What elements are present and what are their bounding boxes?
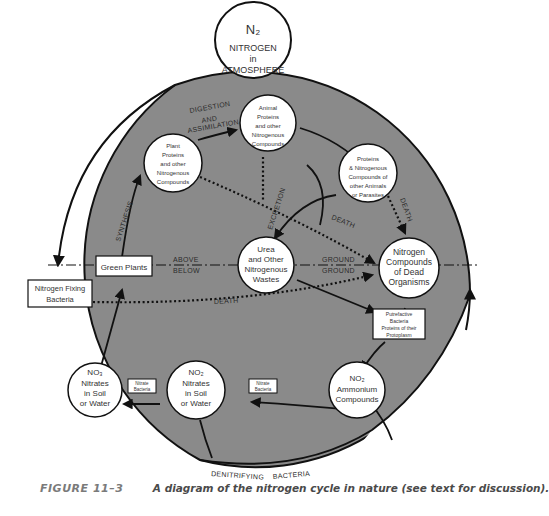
label-denitrifying: DENITRIFYING — [211, 470, 264, 481]
nitrate-bacteria-line: Bacteria — [255, 387, 272, 392]
ammonium-line: Compounds — [335, 395, 378, 404]
node-atmosphere: N₂ NITROGEN in ATMOSPHERE — [215, 2, 291, 78]
atmosphere-line: ATMOSPHERE — [222, 65, 284, 75]
ammonium-formula: NO₂ — [349, 374, 364, 383]
parasite-line: Proteins — [357, 156, 379, 162]
ammonium-line: Ammonium — [337, 385, 378, 394]
dead-line: Nitrogen — [393, 247, 425, 257]
putrefactive-line: Proteins of their — [381, 325, 416, 331]
figure-caption-text: A diagram of the nitrogen cycle in natur… — [153, 482, 549, 494]
plant-line: Plant — [166, 143, 180, 149]
green-plants-label: Green Plants — [101, 263, 148, 272]
plant-line: Proteins — [162, 152, 184, 158]
parasite-line: or Parasites — [352, 192, 384, 198]
atmosphere-formula: N₂ — [246, 22, 260, 37]
animal-line: Animal — [259, 105, 277, 111]
putrefactive-line: Bacteria — [390, 318, 409, 324]
box-green-plants: Green Plants — [96, 256, 152, 276]
putrefactive-line: Protoplasm — [386, 332, 411, 338]
nitrate-bacteria-line: Bacteria — [134, 387, 151, 392]
box-nitrogen-fixing: Nitrogen Fixing Bacteria — [28, 280, 92, 307]
nitrate-bacteria-line: Nitrate — [256, 381, 270, 386]
node-ammonium: NO₂ Ammonium Compounds — [329, 362, 385, 418]
urea-line: Urea — [257, 245, 275, 254]
label-ground-below: GROUND — [322, 267, 355, 274]
figure-caption: FIGURE 11–3 A diagram of the nitrogen cy… — [40, 482, 500, 495]
label-death-lower: DEATH — [214, 297, 239, 305]
nitrogen-fixing-line: Nitrogen Fixing — [35, 284, 85, 293]
parasite-line: other Animals — [350, 183, 386, 189]
animal-line: Nitrogenous — [252, 132, 284, 138]
parasite-line: & Nitrogenous — [349, 165, 387, 171]
nitrogen-fixing-line: Bacteria — [46, 295, 74, 304]
atmosphere-line: NITROGEN — [229, 43, 277, 53]
node-nitrites: NO₂ Nitrates in Soil or Water — [167, 361, 225, 419]
animal-line: Compounds — [252, 141, 284, 147]
box-putrefactive: Putrefactive Bacteria Proteins of their … — [373, 309, 425, 339]
dead-line: Organisms — [388, 277, 429, 287]
animal-line: Proteins — [257, 114, 279, 120]
urea-line: and Other — [248, 255, 284, 264]
urea-line: Nitrogenous — [244, 265, 287, 274]
label-ground-above: GROUND — [322, 256, 355, 263]
label-bacteria: BACTERIA — [272, 470, 310, 480]
node-nitrates: NO₃ Nitrates in Soil or Water — [68, 363, 122, 417]
label-below: BELOW — [173, 267, 200, 274]
node-animal-proteins: Animal Proteins and other Nitrogenous Co… — [240, 95, 296, 151]
nitrates-formula: NO₃ — [87, 368, 102, 377]
nitrites-line: in Soil — [185, 389, 207, 398]
nitrates-line: in Soil — [84, 389, 106, 398]
figure-number: FIGURE 11–3 — [40, 482, 123, 495]
dead-line: Compounds — [386, 257, 432, 267]
node-dead-organisms: Nitrogen Compounds of Dead Organisms — [379, 238, 439, 298]
label-above: ABOVE — [173, 256, 199, 263]
nitrites-line: or Water — [181, 399, 212, 408]
plant-line: and other — [160, 161, 185, 167]
atmosphere-line: in — [249, 54, 256, 64]
nitrates-line: or Water — [80, 399, 111, 408]
parasite-line: Compounds of — [348, 174, 387, 180]
nitrites-line: Nitrates — [182, 379, 210, 388]
nitrate-bacteria-line: Nitrate — [135, 381, 149, 386]
dead-line: of Dead — [394, 267, 424, 277]
box-nitrate-bacteria-left: Nitrate Bacteria — [128, 379, 156, 393]
plant-line: Nitrogenous — [157, 170, 189, 176]
putrefactive-line: Putrefactive — [386, 311, 413, 317]
node-urea: Urea and Other Nitrogenous Wastes — [238, 237, 294, 293]
urea-line: Wastes — [253, 275, 279, 284]
node-parasite-proteins: Proteins & Nitrogenous Compounds of othe… — [339, 144, 397, 202]
plant-line: Compounds — [157, 179, 189, 185]
nitrates-line: Nitrates — [81, 379, 109, 388]
box-nitrate-bacteria-right: Nitrate Bacteria — [249, 379, 277, 393]
animal-line: and other — [255, 123, 280, 129]
node-plant-proteins: Plant Proteins and other Nitrogenous Com… — [144, 134, 202, 192]
nitrites-formula: NO₂ — [188, 368, 203, 377]
